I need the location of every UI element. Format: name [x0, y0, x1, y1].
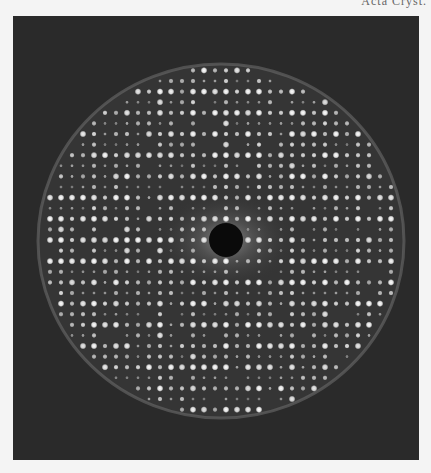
reflection-spot	[245, 237, 252, 244]
reflection-spot	[223, 184, 228, 189]
reflection-spot	[158, 228, 162, 232]
reflection-spot	[202, 270, 206, 274]
reflection-spot	[124, 152, 131, 159]
reflection-spot	[322, 131, 327, 136]
reflection-spot	[355, 321, 362, 328]
reflection-spot	[378, 312, 382, 316]
reflection-spot	[169, 164, 173, 168]
reflection-spot	[146, 258, 153, 265]
reflection-spot	[125, 334, 129, 338]
reflection-spot	[245, 385, 252, 392]
reflection-spot	[322, 121, 327, 126]
reflection-spot	[267, 290, 272, 295]
reflection-spot	[136, 100, 140, 104]
reflection-spot	[257, 334, 261, 338]
reflection-spot	[179, 89, 184, 94]
reflection-spot	[289, 269, 294, 274]
reflection-spot	[366, 312, 371, 317]
reflection-spot	[235, 291, 239, 295]
reflection-spot	[300, 354, 305, 359]
reflection-spot	[246, 334, 250, 338]
reflection-spot	[278, 194, 285, 201]
reflection-spot	[180, 270, 184, 274]
reflection-spot	[355, 290, 360, 295]
reflection-spot	[125, 164, 129, 168]
reflection-spot	[278, 321, 285, 328]
reflection-spot	[312, 100, 316, 104]
reflection-spot	[333, 110, 338, 115]
reflection-spot	[301, 164, 305, 168]
reflection-spot	[257, 206, 261, 210]
reflection-spot	[201, 280, 206, 285]
reflection-spot	[190, 333, 195, 338]
reflection-spot	[135, 152, 142, 159]
reflection-spot	[223, 109, 230, 116]
reflection-spot	[312, 238, 316, 242]
reflection-spot	[256, 364, 263, 371]
reflection-spot	[234, 184, 239, 189]
reflection-spot	[69, 194, 76, 201]
reflection-spot	[278, 290, 283, 295]
reflection-spot	[59, 206, 63, 210]
reflection-spot	[333, 174, 338, 179]
reflection-spot	[256, 406, 263, 413]
reflection-spot	[58, 226, 65, 233]
reflection-spot	[201, 364, 208, 371]
reflection-spot	[157, 396, 162, 401]
reflection-spot	[311, 215, 318, 222]
reflection-spot	[268, 355, 272, 359]
reflection-spot	[355, 206, 360, 211]
reflection-spot	[190, 343, 195, 348]
reflection-spot	[147, 291, 151, 295]
reflection-spot	[47, 194, 54, 201]
reflection-spot	[388, 258, 395, 265]
reflection-spot	[378, 185, 382, 189]
reflection-spot	[333, 333, 338, 338]
reflection-spot	[366, 184, 371, 189]
reflection-spot	[333, 343, 338, 348]
reflection-spot	[135, 163, 140, 168]
reflection-spot	[190, 227, 195, 232]
reflection-spot	[103, 164, 107, 168]
reflection-spot	[234, 322, 239, 327]
reflection-spot	[345, 143, 349, 147]
reflection-spot	[124, 322, 129, 327]
reflection-spot	[80, 280, 85, 285]
reflection-spot	[235, 365, 239, 369]
reflection-spot	[114, 249, 118, 253]
reflection-spot	[124, 301, 129, 306]
reflection-spot	[366, 259, 371, 264]
reflection-spot	[234, 152, 241, 159]
reflection-spot	[125, 291, 129, 295]
reflection-spot	[146, 237, 153, 244]
reflection-spot	[113, 153, 118, 158]
reflection-spot	[245, 68, 250, 73]
reflection-spot	[124, 354, 129, 359]
reflection-spot	[246, 122, 250, 126]
reflection-spot	[311, 110, 316, 115]
reflection-spot	[257, 270, 261, 274]
reflection-spot	[212, 131, 219, 138]
reflection-spot	[113, 343, 120, 350]
reflection-spot	[311, 153, 316, 158]
reflection-spot	[256, 152, 263, 159]
reflection-spot	[157, 99, 164, 106]
reflection-spot	[289, 364, 296, 371]
reflection-spot	[201, 131, 206, 136]
reflection-spot	[179, 216, 184, 221]
reflection-spot	[290, 100, 294, 104]
reflection-spot	[157, 131, 162, 136]
reflection-spot	[169, 249, 173, 253]
reflection-spot	[311, 375, 316, 380]
reflection-spot	[124, 206, 129, 211]
reflection-spot	[366, 142, 371, 147]
reflection-spot	[157, 247, 164, 254]
reflection-spot	[201, 227, 206, 232]
reflection-spot	[311, 280, 316, 285]
reflection-spot	[300, 386, 305, 391]
reflection-spot	[91, 174, 96, 179]
reflection-spot	[146, 386, 151, 391]
reflection-spot	[125, 312, 129, 316]
reflection-spot	[59, 185, 63, 189]
reflection-spot	[135, 280, 140, 285]
